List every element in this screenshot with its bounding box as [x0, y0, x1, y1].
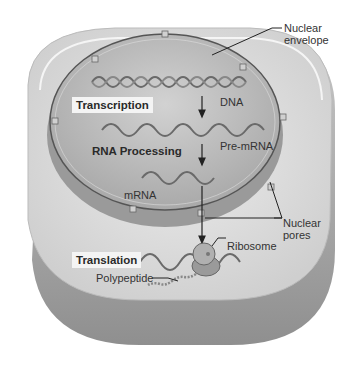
- label-nuclear-envelope: Nuclear envelope: [284, 22, 329, 46]
- step-rna-processing: RNA Processing: [92, 145, 182, 157]
- label-nuclear-pores: Nuclear pores: [283, 217, 321, 241]
- cell-diagram: [0, 0, 361, 367]
- step-translation: Translation: [72, 252, 141, 268]
- label-mrna: mRNA: [124, 189, 156, 201]
- step-transcription: Transcription: [72, 97, 153, 113]
- label-dna: DNA: [220, 96, 243, 108]
- label-pre-mrna: Pre-mRNA: [220, 140, 273, 152]
- label-polypeptide: Polypeptide: [96, 272, 154, 284]
- label-ribosome: Ribosome: [227, 240, 277, 252]
